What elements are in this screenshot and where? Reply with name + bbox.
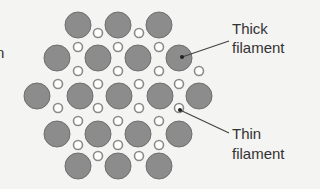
thin-filament: [74, 117, 83, 126]
thick-filament-label: Thick filament: [232, 21, 285, 56]
thick-filament: [65, 153, 91, 179]
thick-filament: [67, 83, 93, 109]
thin-filament: [195, 67, 204, 76]
thin-filament: [155, 67, 164, 76]
thick-filament: [44, 121, 70, 147]
thin-filament: [135, 80, 144, 89]
thin-label-line1: Thin: [232, 126, 285, 142]
thin-filament: [54, 80, 63, 89]
thin-leader-dot: [178, 108, 182, 112]
thin-filament: [155, 43, 164, 52]
thick-label-line1: Thick: [232, 21, 285, 37]
thin-filament: [114, 141, 123, 150]
thick-filament: [106, 83, 132, 109]
thick-filament: [146, 12, 172, 38]
thin-filament: [114, 117, 123, 126]
thin-filament: [94, 152, 103, 161]
thin-filament: [135, 152, 144, 161]
thick-filament: [125, 121, 151, 147]
thin-filament: [135, 104, 144, 113]
thin-filament: [74, 43, 83, 52]
thick-label-line2: filament: [232, 40, 285, 56]
thick-filament-group: [24, 12, 212, 179]
thin-filament: [114, 43, 123, 52]
thin-filament: [155, 141, 164, 150]
thin-filament-label: Thin filament: [232, 126, 285, 162]
thin-filament: [74, 141, 83, 150]
thick-filament: [85, 45, 111, 71]
thick-filament: [105, 153, 131, 179]
thick-filament: [166, 121, 192, 147]
thick-leader-dot: [180, 55, 184, 59]
thin-filament: [94, 29, 103, 38]
thick-filament: [147, 83, 173, 109]
thin-filament: [155, 117, 164, 126]
thin-filament: [94, 104, 103, 113]
thin-filament: [74, 67, 83, 76]
thick-filament: [186, 83, 212, 109]
thick-filament: [85, 121, 111, 147]
thick-filament: [166, 45, 192, 71]
thick-filament: [65, 12, 91, 38]
thin-filament: [54, 104, 63, 113]
thick-filament: [146, 153, 172, 179]
thick-filament: [105, 12, 131, 38]
thin-filament: [175, 80, 184, 89]
thin-filament: [94, 80, 103, 89]
thin-label-line2: filament: [232, 146, 285, 162]
thick-filament: [44, 45, 70, 71]
thick-filament: [24, 83, 50, 109]
thick-filament: [125, 45, 151, 71]
thin-filament: [135, 29, 144, 38]
thin-filament: [114, 67, 123, 76]
